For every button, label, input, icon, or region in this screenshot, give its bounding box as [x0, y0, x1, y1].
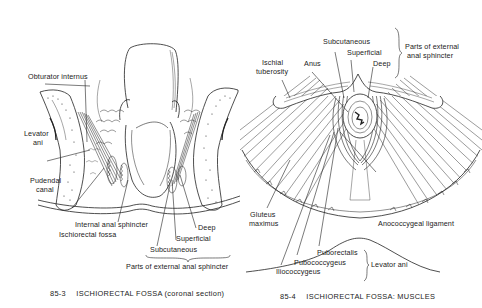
label-ischiorectal-fossa: Ischiorectal fossa: [59, 231, 116, 239]
caption-number: 85-4: [280, 292, 296, 301]
label-pudendal-canal-line1: Pudendal: [30, 177, 61, 185]
caption-title: ISCHIORECTAL FOSSA: [76, 289, 162, 298]
label-iliococcygeus: Iliococcygeus: [276, 268, 320, 276]
label-ischial-tuberosity-line2: tuberosity: [256, 68, 288, 76]
label-levator-ani-line2: ani: [33, 139, 43, 147]
caption-number: 85-3: [50, 289, 66, 298]
label-superficial: Superficial: [176, 235, 211, 243]
figure-85-3-coronal-section: Obturator internus Levator ani Pudendal …: [0, 0, 240, 308]
label-anococcygeal-ligament: Anococcygeal ligament: [378, 220, 454, 228]
label-gluteus-maximus-line2: maximus: [249, 220, 278, 228]
label-internal-anal-sphincter: Internal anal sphincter: [75, 221, 148, 229]
label-levator-ani: Levator ani: [371, 261, 408, 269]
caption-title: ISCHIORECTAL FOSSA: MUSCLES: [306, 292, 435, 301]
label-subcutaneous: Subcutaneous: [323, 38, 370, 46]
caption-subtitle: (coronal section): [165, 289, 225, 298]
label-ischial-tuberosity-line1: Ischial: [262, 59, 283, 67]
label-pudendal-canal-line2: canal: [36, 186, 54, 194]
label-deep: Deep: [198, 224, 216, 232]
label-pubococcygeus: Pubococcygeus: [294, 259, 346, 267]
label-levator-ani-line1: Levator: [24, 130, 49, 138]
figure-caption-85-4: 85-4 ISCHIORECTAL FOSSA: MUSCLES: [280, 292, 435, 301]
label-anus: Anus: [304, 60, 321, 68]
figure-85-4-muscles: Subcutaneous Superficial Deep Parts of e…: [240, 0, 482, 308]
label-parts-of-external-anal-sphincter: Parts of external anal sphincter: [126, 263, 228, 271]
label-obturator-internus: Obturator internus: [28, 73, 88, 81]
label-gluteus-maximus-line1: Gluteus: [250, 211, 275, 219]
label-deep: Deep: [373, 60, 391, 68]
label-puborectalis: Puborectalis: [317, 249, 358, 257]
label-superficial: Superficial: [347, 49, 382, 57]
label-parts-of-external-line1: Parts of external: [405, 43, 459, 51]
label-subcutaneous: Subcutaneous: [150, 246, 197, 254]
figure-caption-85-3: 85-3 ISCHIORECTAL FOSSA (coronal section…: [50, 289, 224, 298]
label-parts-of-external-line2: anal sphincter: [407, 52, 453, 60]
